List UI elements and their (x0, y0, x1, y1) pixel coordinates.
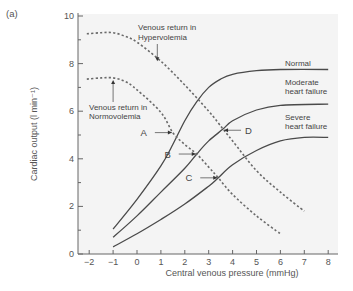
plot-area (78, 14, 338, 254)
y-tick-label: 4 (69, 154, 74, 164)
chart: −2−10123456780246810 ABCDVenous return i… (0, 0, 353, 291)
x-tick-label: 1 (158, 257, 163, 267)
severe-heart-failure-label: Severe (285, 113, 311, 122)
severe-heart-failure-label: heart failure (285, 122, 328, 131)
moderate-heart-failure-label: Moderate (285, 78, 319, 87)
y-tick-label: 10 (64, 11, 74, 21)
y-tick-label: 2 (69, 201, 74, 211)
x-tick-label: −1 (108, 257, 118, 267)
x-tick-label: 8 (326, 257, 331, 267)
x-tick-label: −2 (84, 257, 94, 267)
x-tick-label: 5 (254, 257, 259, 267)
y-tick-label: 0 (69, 249, 74, 259)
y-tick-label: 8 (69, 59, 74, 69)
point-label-a: A (141, 127, 148, 138)
x-tick-label: 0 (134, 257, 139, 267)
normovolemia-label: Normovolemia (89, 112, 141, 121)
normovolemia-label: Venous return in (89, 103, 147, 112)
point-label-b: B (164, 149, 170, 160)
panel-label: (a) (6, 8, 18, 19)
y-axis-title: Cardiac output (l min⁻¹) (29, 87, 39, 181)
x-axis-title: Central venous pressure (mmHg) (165, 268, 298, 278)
hypervolemia-label: Hypervolemia (138, 33, 187, 42)
hypervolemia-label: Venous return in (138, 23, 196, 32)
x-tick-label: 6 (278, 257, 283, 267)
point-label-d: D (245, 125, 252, 136)
point-label-c: C (185, 172, 192, 183)
x-tick-label: 3 (206, 257, 211, 267)
x-tick-label: 2 (182, 257, 187, 267)
y-tick-label: 6 (69, 106, 74, 116)
x-tick-label: 7 (302, 257, 307, 267)
x-tick-label: 4 (230, 257, 235, 267)
moderate-heart-failure-label: heart failure (285, 87, 328, 96)
normal-label: Normal (285, 59, 311, 68)
